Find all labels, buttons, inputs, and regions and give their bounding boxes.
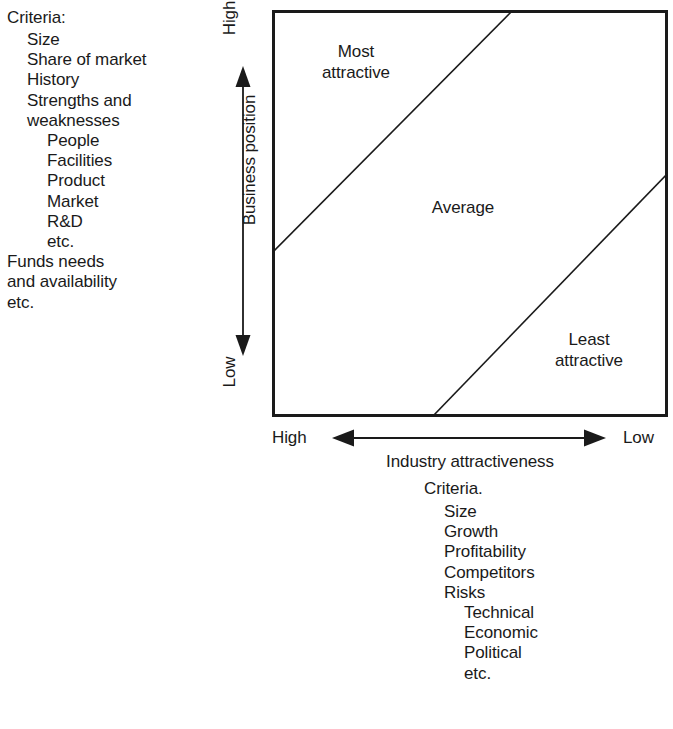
list-item: etc. — [7, 232, 207, 252]
list-item: Economic — [424, 623, 654, 643]
x-axis-double-arrow-icon — [332, 426, 606, 450]
zone-label-least-attractive: Least attractive — [530, 330, 648, 371]
list-item: Share of market — [7, 50, 207, 70]
list-item: Profitability — [424, 542, 654, 562]
bottom-criteria-list: Size Growth Profitability Competitors Ri… — [424, 502, 654, 684]
list-item: Competitors — [424, 563, 654, 583]
list-item: Product — [7, 171, 207, 191]
x-axis-low-label: Low — [623, 428, 654, 448]
x-axis-high-label: High — [272, 428, 307, 448]
list-item: Funds needs — [7, 252, 207, 272]
list-item: Political — [424, 643, 654, 663]
zone-label-average: Average — [420, 198, 506, 219]
y-axis-high-label: High — [220, 0, 240, 48]
list-item: and availability — [7, 272, 207, 292]
bottom-criteria-block: Criteria. Size Growth Profitability Comp… — [424, 478, 654, 684]
zone-label-most-attractive: Most attractive — [300, 42, 412, 83]
list-item: History — [7, 70, 207, 90]
zone-least-line2: attractive — [530, 351, 648, 372]
list-item: etc. — [424, 664, 654, 684]
list-item: Market — [7, 192, 207, 212]
list-item: R&D — [7, 212, 207, 232]
list-item: Size — [7, 30, 207, 50]
zone-most-line2: attractive — [300, 63, 412, 84]
figure-canvas: Criteria: Size Share of market History S… — [0, 0, 673, 729]
list-item: Size — [424, 502, 654, 522]
y-axis-title: Business position — [240, 80, 260, 240]
bottom-criteria-heading: Criteria. — [424, 478, 654, 499]
left-criteria-block: Criteria: Size Share of market History S… — [7, 7, 207, 313]
list-item: etc. — [7, 293, 207, 313]
list-item: Technical — [424, 603, 654, 623]
list-item: Strengths and — [7, 91, 207, 111]
list-item: People — [7, 131, 207, 151]
list-item: Growth — [424, 522, 654, 542]
zone-most-line1: Most — [300, 42, 412, 63]
list-item: Risks — [424, 583, 654, 603]
left-criteria-list: Size Share of market History Strengths a… — [7, 30, 207, 313]
list-item: weaknesses — [7, 111, 207, 131]
list-item: Facilities — [7, 151, 207, 171]
x-axis-title: Industry attractiveness — [272, 452, 668, 472]
zone-least-line1: Least — [530, 330, 648, 351]
left-criteria-heading: Criteria: — [7, 7, 207, 28]
